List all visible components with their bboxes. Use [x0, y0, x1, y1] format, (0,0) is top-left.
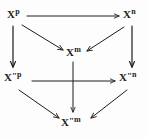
arrow-xn-to-xm [87, 27, 124, 51]
arrow-xppp-to-xppm [19, 90, 59, 118]
arrow-xppn-to-xppm [91, 90, 127, 118]
node-x-doubleprime-n-base: X [119, 71, 127, 83]
commutative-diagram: Xp Xn Xm X"p X"n X"m [0, 0, 149, 138]
node-x-p: Xp [7, 9, 20, 20]
node-x-doubleprime-p: X"p [4, 72, 21, 83]
node-x-doubleprime-m: X"m [61, 117, 81, 128]
node-x-doubleprime-p-exponent: p [17, 70, 22, 79]
node-x-p-base: X [7, 8, 15, 20]
node-x-n-exponent: n [131, 7, 136, 16]
node-x-doubleprime-p-base: X [4, 71, 12, 83]
node-x-m: Xm [66, 47, 81, 58]
node-x-doubleprime-m-exponent: m [74, 115, 81, 124]
node-x-doubleprime-n-exponent: n [132, 70, 137, 79]
arrow-xp-to-xm [22, 25, 63, 50]
node-x-doubleprime-m-base: X [61, 116, 69, 128]
node-x-n-base: X [123, 8, 131, 20]
node-x-m-base: X [66, 46, 74, 58]
node-x-p-exponent: p [15, 7, 20, 16]
node-x-doubleprime-n: X"n [119, 72, 136, 83]
node-x-n: Xn [123, 9, 136, 20]
node-x-m-exponent: m [74, 45, 81, 54]
